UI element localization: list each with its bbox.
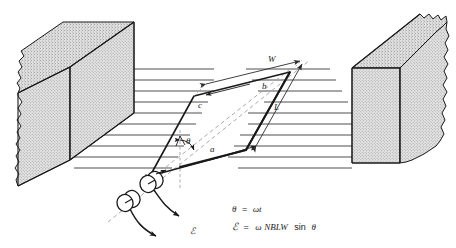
- label-L: L: [273, 102, 279, 112]
- generator-diagram: W L a b c d θ ℰ θ: [0, 0, 456, 248]
- equation-emf: ℰ = ω NBLW sin θ: [232, 221, 316, 232]
- label-theta: θ: [186, 136, 191, 146]
- diagram-canvas: W L a b c d θ ℰ θ: [0, 0, 456, 248]
- label-side-a: a: [210, 144, 215, 154]
- equation-theta: θ = ωt: [232, 204, 262, 214]
- label-side-b: b: [262, 81, 267, 91]
- label-side-c: c: [198, 100, 202, 110]
